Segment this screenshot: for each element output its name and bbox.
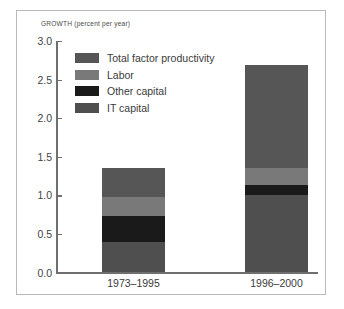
y-axis-title: GROWTH (percent per year) (41, 20, 130, 27)
bar-segment (245, 168, 308, 185)
tick-label: 2.0 (37, 112, 52, 124)
tick-mark (56, 157, 62, 158)
legend-label: Labor (107, 69, 134, 81)
legend-swatch-icon (75, 53, 99, 63)
chart-figure: GROWTH (percent per year) 0.00.51.01.52.… (16, 10, 326, 295)
plot-area: GROWTH (percent per year) 0.00.51.01.52.… (17, 11, 325, 294)
tick-label: 1.0 (37, 189, 52, 201)
tick-mark (56, 234, 62, 235)
tick-label: 0.5 (37, 228, 52, 240)
tick-label: 1.5 (37, 151, 52, 163)
stacked-bar (245, 65, 308, 273)
tick-label: 3.0 (37, 35, 52, 47)
category-label: 1973–1995 (69, 277, 199, 289)
bar-segment (245, 65, 308, 168)
legend-item: IT capital (75, 101, 214, 115)
stacked-bar (102, 168, 165, 273)
legend-swatch-icon (75, 86, 99, 96)
chart-legend: Total factor productivityLaborOther capi… (75, 51, 214, 117)
legend-item: Total factor productivity (75, 51, 214, 65)
tick-mark (56, 273, 62, 274)
bar-segment (102, 197, 165, 216)
legend-label: Other capital (107, 85, 167, 97)
tick-mark (56, 41, 62, 42)
bar-segment (245, 195, 308, 272)
legend-label: IT capital (107, 102, 149, 114)
legend-swatch-icon (75, 70, 99, 80)
tick-label: 2.5 (37, 74, 52, 86)
tick-mark (56, 195, 62, 196)
legend-label: Total factor productivity (107, 52, 214, 64)
tick-label: 0.0 (37, 267, 52, 279)
bar-segment (102, 168, 165, 197)
tick-mark (56, 80, 62, 81)
bar-segment (102, 216, 165, 242)
legend-item: Labor (75, 68, 214, 82)
legend-item: Other capital (75, 84, 214, 98)
bar-segment (245, 185, 308, 196)
bar-segment (102, 242, 165, 272)
category-label: 1996–2000 (212, 277, 342, 289)
legend-swatch-icon (75, 103, 99, 113)
tick-mark (56, 118, 62, 119)
